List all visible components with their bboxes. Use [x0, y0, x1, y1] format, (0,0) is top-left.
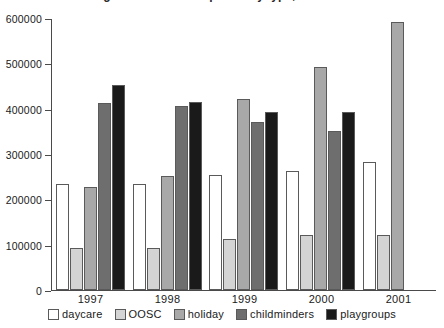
bar-OOSC — [377, 235, 390, 290]
bar-daycare — [209, 175, 222, 290]
y-tick-label: 100000 — [6, 240, 42, 252]
legend-swatch-childminders — [236, 309, 247, 320]
x-axis-label-1997: 1997 — [52, 293, 129, 305]
y-tick — [45, 155, 51, 156]
bar-daycare — [133, 184, 146, 290]
bar-OOSC — [223, 239, 236, 290]
y-tick — [45, 200, 51, 201]
legend-label-childminders: childminders — [250, 308, 314, 320]
bar-holiday — [161, 176, 174, 290]
bar-OOSC — [147, 248, 160, 290]
y-tick-label: 300000 — [6, 149, 42, 161]
y-tick-label: 500000 — [6, 58, 42, 70]
legend-label-OOSC: OOSC — [129, 308, 162, 320]
bar-childminders — [328, 131, 341, 290]
legend-item-daycare: daycare — [48, 308, 103, 320]
x-axis-labels: 19971998199920002001 — [52, 293, 437, 305]
legend-item-holiday: holiday — [174, 308, 224, 320]
bar-daycare — [363, 162, 376, 290]
bar-holiday — [391, 22, 404, 290]
x-axis-label-1999: 1999 — [206, 293, 283, 305]
bar-holiday — [314, 67, 327, 290]
chart-legend: daycareOOSCholidaychildmindersplaygroups — [0, 308, 444, 320]
legend-swatch-OOSC — [115, 309, 126, 320]
legend-label-daycare: daycare — [62, 308, 103, 320]
bar-group — [129, 19, 206, 290]
bar-childminders — [175, 106, 188, 290]
y-tick — [45, 19, 51, 20]
bar-daycare — [56, 184, 69, 290]
bar-playgroups — [112, 85, 125, 290]
plot-area: 0100000200000300000400000500000600000 — [51, 19, 436, 291]
y-tick — [45, 64, 51, 65]
x-axis-label-1998: 1998 — [129, 293, 206, 305]
y-tick — [45, 110, 51, 111]
bar-daycare — [286, 171, 299, 290]
bar-group — [52, 19, 129, 290]
y-tick-label: 200000 — [6, 194, 42, 206]
legend-swatch-playgroups — [326, 309, 337, 320]
bar-playgroups — [265, 112, 278, 290]
chart-title-clipped: Registered childcare places by type, 199… — [0, 0, 444, 7]
x-axis-line — [51, 290, 436, 291]
bar-OOSC — [300, 235, 313, 290]
bar-chart: Registered childcare places by type, 199… — [0, 0, 444, 328]
bar-OOSC — [70, 248, 83, 290]
y-tick-label: 600000 — [6, 13, 42, 25]
y-tick — [45, 246, 51, 247]
chart-title: Registered childcare places by type, 199… — [88, 0, 356, 2]
legend-swatch-daycare — [48, 309, 59, 320]
bar-playgroups — [189, 102, 202, 290]
bar-group — [282, 19, 359, 290]
bar-group — [359, 19, 436, 290]
bar-childminders — [251, 122, 264, 290]
bar-holiday — [237, 99, 250, 290]
bar-childminders — [98, 103, 111, 290]
legend-label-holiday: holiday — [188, 308, 224, 320]
y-tick-label: 0 — [36, 285, 42, 297]
legend-item-OOSC: OOSC — [115, 308, 162, 320]
bar-groups — [52, 19, 436, 290]
bar-playgroups — [342, 112, 355, 290]
y-tick — [45, 291, 51, 292]
legend-item-childminders: childminders — [236, 308, 314, 320]
x-axis-label-2001: 2001 — [360, 293, 437, 305]
bar-holiday — [84, 187, 97, 290]
bar-group — [206, 19, 283, 290]
x-axis-label-2000: 2000 — [283, 293, 360, 305]
legend-swatch-holiday — [174, 309, 185, 320]
legend-item-playgroups: playgroups — [326, 308, 396, 320]
y-tick-label: 400000 — [6, 104, 42, 116]
legend-label-playgroups: playgroups — [340, 308, 396, 320]
